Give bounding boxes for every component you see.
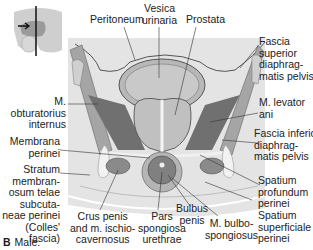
label-prostata: Prostata <box>186 14 225 26</box>
label-fascia-superior: Fascia superior diaphrag- matis pelvis <box>259 36 313 82</box>
label-m-levator-ani: M. levator ani <box>259 97 305 120</box>
label-membrana-perinei: Membrana perinei <box>10 136 60 159</box>
label-m-obturatorius: M. obturatorius internus <box>11 96 66 131</box>
label-spatium-profundum: Spatium profundum perinei <box>258 175 308 210</box>
label-peritoneum: Peritoneum <box>90 14 144 26</box>
label-crus-penis: Crus penis and m. ischio- cavernosus <box>70 211 135 246</box>
figure-caption: BMale. <box>3 236 40 248</box>
label-bulbus-penis: Bulbus penis <box>176 203 208 226</box>
left-crus-penis <box>106 158 130 174</box>
bulbus-penis <box>148 156 176 184</box>
label-fascia-inferior: Fascia inferior diaphrag- matis pelvis <box>254 128 313 163</box>
label-spatium-superficiale: Spatium superficiale perinei <box>258 210 311 245</box>
label-stratum-membranosum: Stratum membran- osum telae subcuta- nea… <box>2 164 60 245</box>
caption-letter: B <box>3 236 11 248</box>
caption-text: Male. <box>15 236 41 248</box>
orientation-thumbnail <box>14 6 62 56</box>
label-vesica-urinaria: Vesica urinaria <box>142 3 177 26</box>
label-m-bulbospongiosus: M. bulbo- spongiosus <box>205 218 258 241</box>
right-crus-penis <box>200 158 224 174</box>
